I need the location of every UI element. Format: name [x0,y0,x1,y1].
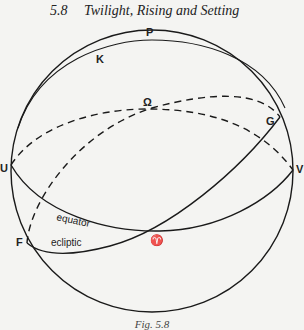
label-v: V [296,163,304,175]
label-ecliptic: ecliptic [51,237,82,248]
label-f: F [16,236,23,248]
label-u: U [0,162,8,174]
ecliptic-front [27,117,280,253]
label-p: P [146,26,153,38]
figure-caption: Fig. 5.8 [0,318,304,330]
equator-front [11,165,293,231]
k-arc [18,40,285,128]
label-g: G [266,115,275,127]
label-equator: equator [56,211,92,229]
label-omega: Ω [143,96,152,108]
label-aries: ♈ [150,234,164,247]
label-k: K [96,53,104,65]
celestial-sphere-outline [11,30,293,312]
equator-back [11,109,293,170]
